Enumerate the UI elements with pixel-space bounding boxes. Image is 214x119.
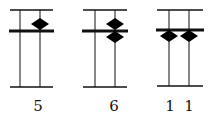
value-label: 1 — [184, 99, 194, 114]
abacus-3 — [156, 10, 204, 86]
value-label: 6 — [109, 99, 119, 114]
lower-bead — [180, 30, 198, 42]
lower-bead — [160, 30, 178, 42]
upper-bead — [106, 18, 124, 30]
abacus-diagram — [0, 0, 214, 119]
upper-bead — [31, 18, 49, 30]
value-label: 5 — [33, 99, 43, 114]
lower-bead — [106, 31, 124, 43]
value-label: 1 — [165, 99, 175, 114]
abacus-2 — [82, 10, 128, 87]
abacus-1 — [9, 10, 54, 87]
